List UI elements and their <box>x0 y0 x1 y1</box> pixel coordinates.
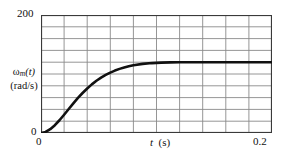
grid-lines <box>41 15 272 133</box>
y-axis-units: (rad/s) <box>6 80 42 92</box>
x-axis-variable: t <box>150 136 153 148</box>
y-axis-title: ωm(t) (rad/s) <box>6 66 42 92</box>
plot-svg <box>41 15 272 133</box>
x-axis-title: t (s) <box>150 136 170 148</box>
y-axis-title-line1: ωm(t) <box>6 66 42 80</box>
x-axis-min-tick-label: 0 <box>36 136 42 147</box>
x-axis-max-tick-label: 0.2 <box>253 136 267 147</box>
x-axis-units: (s) <box>159 136 171 148</box>
y-axis-variable: (t) <box>25 66 35 77</box>
omega-symbol: ω <box>13 66 20 77</box>
motor-speed-step-response-chart: 200 0 ωm(t) (rad/s) 0 0.2 t (s) <box>0 0 286 160</box>
y-axis-max-tick-label: 200 <box>17 8 34 19</box>
plot-area <box>41 15 272 133</box>
